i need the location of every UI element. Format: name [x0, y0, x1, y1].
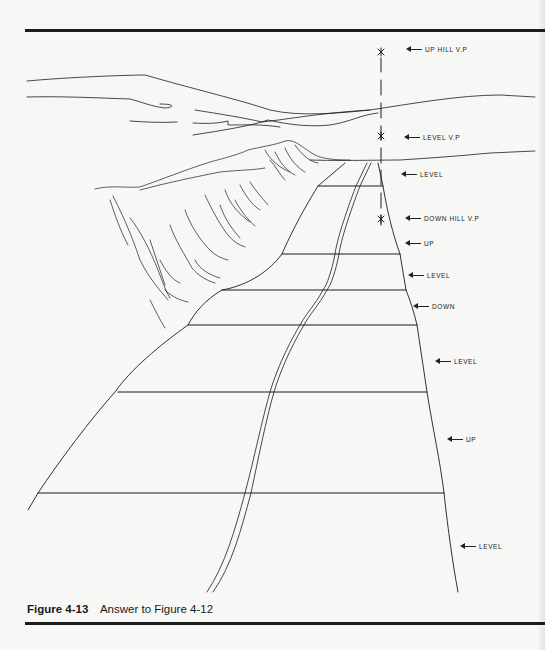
figure-number: Figure 4-13: [27, 603, 88, 615]
label-level-2: LEVEL: [410, 272, 450, 279]
arrow-left-icon: [415, 306, 429, 307]
distant-hills: [27, 75, 535, 160]
label-level-vp: LEVEL V.P: [406, 134, 460, 141]
label-level-3: LEVEL: [437, 358, 477, 365]
arrow-left-icon: [403, 174, 417, 175]
figure-caption-text: Answer to Figure 4-12: [100, 603, 213, 615]
road-cross-lines: [38, 186, 444, 493]
label-level-1: LEVEL: [403, 171, 443, 178]
arrow-left-icon: [437, 361, 451, 362]
road-edges: [28, 163, 458, 592]
arrow-left-icon: [462, 546, 476, 547]
arrow-left-icon: [410, 275, 424, 276]
arrow-left-icon: [406, 137, 420, 138]
label-level-4: LEVEL: [462, 543, 502, 550]
label-up-2: UP: [449, 436, 476, 443]
label-down: DOWN: [415, 303, 455, 310]
grassy-hill: [95, 141, 350, 328]
perspective-road-drawing: [0, 0, 545, 650]
label-up-hill-vp: UP HILL V.P: [408, 46, 468, 53]
arrow-left-icon: [407, 218, 421, 219]
figure-caption: Figure 4-13 Answer to Figure 4-12: [27, 603, 213, 615]
arrow-left-icon: [407, 243, 421, 244]
arrow-left-icon: [408, 49, 422, 50]
bottom-rule: [25, 622, 545, 625]
arrow-left-icon: [449, 439, 463, 440]
label-down-hill-vp: DOWN HILL V.P: [407, 215, 479, 222]
label-up-1: UP: [407, 240, 434, 247]
